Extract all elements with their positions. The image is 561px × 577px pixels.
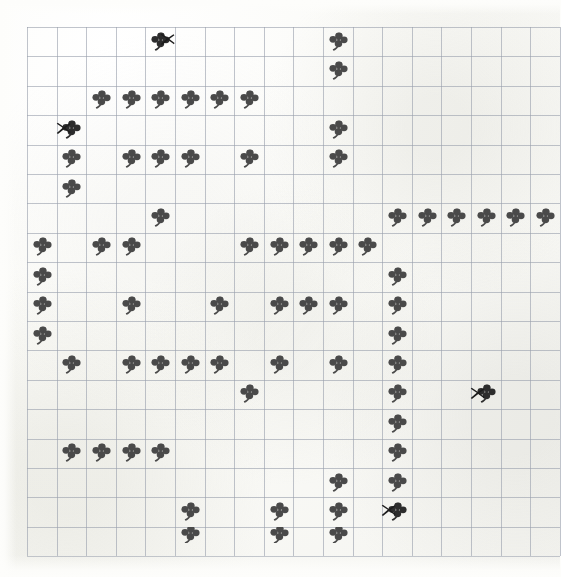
clover-symbol: [175, 145, 205, 174]
four-leaf-clover-icon: [178, 88, 202, 112]
clover-symbol: [382, 203, 412, 232]
clover-symbol: [264, 292, 294, 321]
four-leaf-clover-icon: [207, 294, 231, 318]
four-leaf-clover-icon: [474, 206, 498, 230]
clover-symbol: [382, 468, 412, 497]
clover-symbol: [234, 233, 264, 262]
clover-symbol: [323, 527, 353, 543]
clover-symbol: [175, 497, 205, 526]
clover-symbol: [412, 203, 442, 232]
clover-symbol: [471, 203, 501, 232]
four-leaf-clover-icon: [237, 235, 261, 259]
clover-symbol: [116, 350, 146, 379]
four-leaf-clover-icon: [385, 441, 409, 465]
four-leaf-clover-icon: [385, 353, 409, 377]
four-leaf-clover-icon: [178, 500, 202, 524]
clover-symbol: [530, 203, 560, 232]
four-leaf-clover-icon: [30, 265, 54, 289]
four-leaf-clover-icon: [326, 235, 350, 259]
four-leaf-clover-icon: [119, 147, 143, 171]
four-leaf-clover-icon: [237, 147, 261, 171]
four-leaf-clover-icon: [148, 353, 172, 377]
four-leaf-clover-icon: [385, 500, 409, 524]
clover-symbol: [264, 527, 294, 543]
four-leaf-clover-icon: [207, 88, 231, 112]
four-leaf-clover-icon: [503, 206, 527, 230]
clover-symbol: [382, 380, 412, 409]
four-leaf-clover-icon: [59, 147, 83, 171]
four-leaf-clover-icon: [326, 59, 350, 83]
clover-symbol: [382, 292, 412, 321]
four-leaf-clover-icon: [355, 235, 379, 259]
clover-symbol: [145, 145, 175, 174]
clover-symbol: [234, 145, 264, 174]
clover-symbol: [86, 439, 116, 468]
clover-symbol: [264, 233, 294, 262]
clover-symbol: [116, 145, 146, 174]
clover-symbol: [116, 292, 146, 321]
four-leaf-clover-icon: [59, 441, 83, 465]
four-leaf-clover-icon: [178, 147, 202, 171]
four-leaf-clover-icon: [267, 527, 291, 543]
clover-symbol: [27, 262, 57, 291]
four-leaf-clover-icon: [326, 500, 350, 524]
clover-symbol: [86, 86, 116, 115]
four-leaf-clover-icon: [385, 265, 409, 289]
clover-symbol: [57, 350, 87, 379]
four-leaf-clover-icon: [385, 412, 409, 436]
clover-symbol: [441, 203, 471, 232]
clover-symbol: [323, 292, 353, 321]
clover-symbol: [323, 56, 353, 85]
clover-symbol: [57, 174, 87, 203]
clover-symbol: [116, 233, 146, 262]
clover-symbol: [501, 203, 531, 232]
clover-symbol: [323, 497, 353, 526]
clover-symbol: [57, 145, 87, 174]
four-leaf-clover-icon: [119, 235, 143, 259]
four-leaf-clover-icon: [326, 353, 350, 377]
four-leaf-clover-icon: [148, 147, 172, 171]
four-leaf-clover-icon: [119, 353, 143, 377]
four-leaf-clover-icon: [178, 527, 202, 543]
clover-symbol: [175, 86, 205, 115]
clover-symbol-marked: [57, 115, 87, 144]
clover-symbol: [234, 380, 264, 409]
four-leaf-clover-icon: [267, 500, 291, 524]
clover-symbol: [205, 292, 235, 321]
four-leaf-clover-icon: [444, 206, 468, 230]
clover-symbol-marked: [382, 497, 412, 526]
four-leaf-clover-icon: [89, 88, 113, 112]
clover-symbol: [382, 262, 412, 291]
four-leaf-clover-icon: [296, 235, 320, 259]
four-leaf-clover-icon: [89, 441, 113, 465]
clover-symbol: [116, 439, 146, 468]
clover-symbol: [57, 439, 87, 468]
clover-symbol: [293, 292, 323, 321]
clover-symbol: [323, 350, 353, 379]
four-leaf-clover-icon: [148, 441, 172, 465]
clover-symbol: [264, 350, 294, 379]
four-leaf-clover-icon: [119, 88, 143, 112]
four-leaf-clover-icon: [326, 527, 350, 543]
four-leaf-clover-icon: [207, 353, 231, 377]
clover-symbol: [27, 292, 57, 321]
four-leaf-clover-icon: [89, 235, 113, 259]
four-leaf-clover-icon: [148, 88, 172, 112]
clover-symbol: [175, 527, 205, 543]
four-leaf-clover-icon: [148, 30, 172, 54]
clover-symbol: [323, 27, 353, 56]
clover-symbol: [323, 115, 353, 144]
four-leaf-clover-icon: [59, 353, 83, 377]
clover-symbol: [145, 203, 175, 232]
four-leaf-clover-icon: [385, 382, 409, 406]
clover-symbol: [353, 233, 383, 262]
four-leaf-clover-icon: [267, 294, 291, 318]
four-leaf-clover-icon: [326, 471, 350, 495]
clover-symbol: [145, 86, 175, 115]
four-leaf-clover-icon: [267, 235, 291, 259]
four-leaf-clover-icon: [326, 294, 350, 318]
four-leaf-clover-icon: [326, 30, 350, 54]
clover-symbol: [382, 350, 412, 379]
